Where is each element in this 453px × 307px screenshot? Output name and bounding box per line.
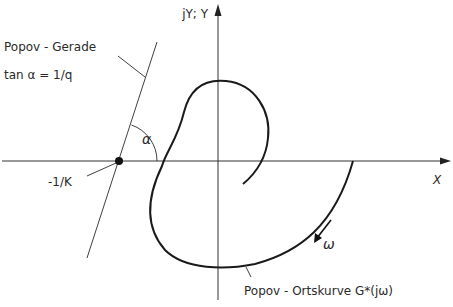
- x-axis-arrow-icon: [440, 158, 451, 165]
- popov-line-leader: [118, 56, 145, 77]
- locus-leader: [246, 267, 251, 277]
- y-axis-arrow-icon: [215, 4, 222, 16]
- popov-line: [87, 42, 157, 258]
- angle-label: α: [142, 131, 152, 147]
- popov-line-equation: tan α = 1/q: [4, 68, 72, 82]
- critical-point-leader: [87, 163, 116, 176]
- x-axis-label: X: [432, 173, 442, 187]
- locus-label: Popov - Ortskurve G*(jω): [244, 284, 393, 298]
- popov-line-label: Popov - Gerade: [4, 40, 96, 54]
- popov-diagram: jY; Y X Popov - Gerade tan α = 1/q α -1/…: [0, 0, 453, 307]
- omega-label: ω: [323, 236, 335, 252]
- omega-arrow-icon: [314, 233, 322, 243]
- critical-point: [115, 157, 123, 165]
- critical-point-label: -1/K: [48, 175, 73, 189]
- y-axis-label: jY; Y: [181, 7, 209, 21]
